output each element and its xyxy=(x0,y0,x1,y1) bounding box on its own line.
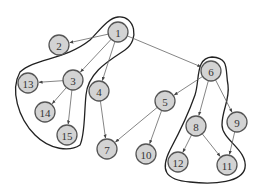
node-label: 10 xyxy=(141,149,153,161)
node-label: 2 xyxy=(56,40,62,52)
edge-3-to-13 xyxy=(39,81,63,83)
node-label: 5 xyxy=(162,96,168,108)
nodes: 123456789101112131415 xyxy=(18,22,247,175)
node-3: 3 xyxy=(63,70,83,90)
node-7: 7 xyxy=(97,139,117,159)
node-label: 7 xyxy=(104,144,110,156)
node-label: 9 xyxy=(234,117,240,129)
node-9: 9 xyxy=(227,112,247,132)
node-10: 10 xyxy=(136,144,156,164)
node-label: 6 xyxy=(208,66,214,78)
graph-diagram: 123456789101112131415 xyxy=(0,0,257,195)
node-label: 14 xyxy=(40,107,52,119)
node-5: 5 xyxy=(155,91,175,111)
node-13: 13 xyxy=(18,73,38,93)
edge-6-to-9 xyxy=(216,80,232,112)
edge-3-to-14 xyxy=(52,88,66,104)
edge-3-to-15 xyxy=(68,90,72,124)
node-4: 4 xyxy=(89,81,109,101)
edge-6-to-8 xyxy=(199,81,208,116)
node-label: 3 xyxy=(70,75,76,87)
edge-9-to-11 xyxy=(229,132,234,155)
edge-5-to-10 xyxy=(150,110,162,143)
node-6: 6 xyxy=(201,61,221,81)
node-1: 1 xyxy=(108,22,128,42)
node-label: 15 xyxy=(62,130,74,142)
node-label: 4 xyxy=(96,86,102,98)
edge-1-to-6 xyxy=(127,36,201,67)
node-label: 8 xyxy=(193,121,199,133)
node-14: 14 xyxy=(35,102,55,122)
node-label: 12 xyxy=(173,157,184,169)
node-15: 15 xyxy=(57,125,77,145)
node-2: 2 xyxy=(49,35,69,55)
edge-5-to-7 xyxy=(115,107,157,142)
edge-8-to-12 xyxy=(183,135,192,152)
node-label: 11 xyxy=(222,160,233,172)
node-label: 13 xyxy=(23,78,35,90)
node-8: 8 xyxy=(186,116,206,136)
edge-8-to-11 xyxy=(202,134,220,157)
edge-1-to-4 xyxy=(102,42,115,81)
node-label: 1 xyxy=(115,27,121,39)
node-11: 11 xyxy=(217,155,237,175)
edge-4-to-7 xyxy=(100,101,105,138)
node-12: 12 xyxy=(168,152,188,172)
edge-6-to-5 xyxy=(174,76,202,95)
